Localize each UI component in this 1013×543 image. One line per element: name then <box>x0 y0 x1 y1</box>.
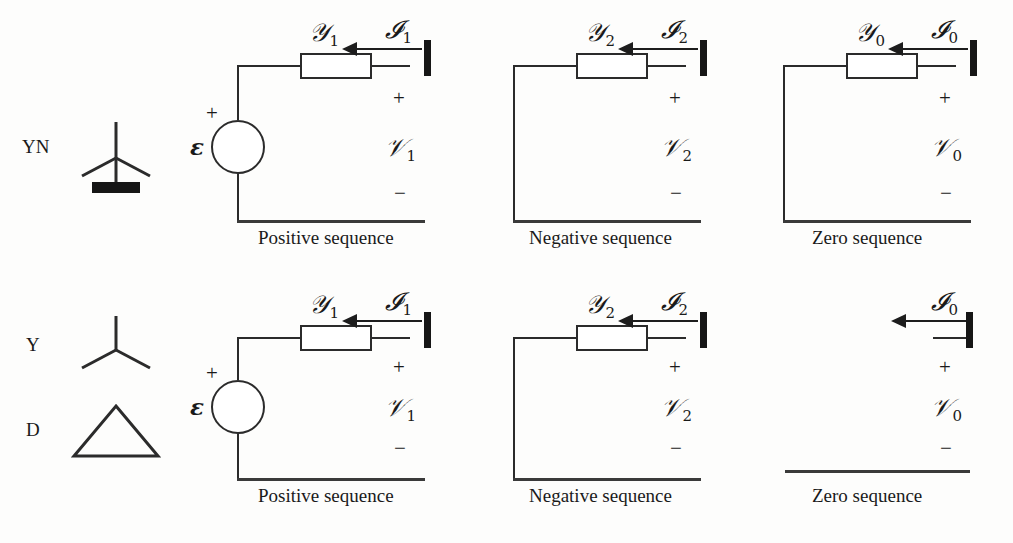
wye-grounded-symbol-icon <box>62 118 170 196</box>
wire-left-return <box>783 65 785 221</box>
network-caption: Negative sequence <box>529 228 672 247</box>
voltage-minus-sign: − <box>394 183 406 204</box>
source-polarity-plus: + <box>206 103 218 124</box>
admittance-box <box>576 53 648 79</box>
connection-label-d: D <box>26 420 40 439</box>
wire-top-left <box>237 65 303 67</box>
admittance-box <box>846 53 918 79</box>
network-caption: Positive sequence <box>258 228 394 247</box>
voltage-source-symbol <box>211 120 265 174</box>
wire-source-upper <box>237 337 239 380</box>
reference-rail <box>785 470 970 473</box>
admittance-label: 𝒴1 <box>309 292 339 321</box>
voltage-label: 𝒱0 <box>931 135 962 164</box>
wire-top-right <box>370 337 410 339</box>
source-label: ε <box>190 395 204 418</box>
network-caption: Zero sequence <box>812 486 922 505</box>
current-arrow-head <box>618 314 633 328</box>
source-polarity-plus: + <box>206 363 218 384</box>
voltage-minus-sign: − <box>394 438 406 459</box>
wire-left-return <box>513 65 515 221</box>
voltage-plus-sign: + <box>939 357 951 378</box>
network-caption: Negative sequence <box>529 486 672 505</box>
reference-rail <box>237 220 425 223</box>
voltage-plus-sign: + <box>393 357 405 378</box>
source-label: ε <box>190 135 204 158</box>
admittance-label: 𝒴2 <box>585 292 615 321</box>
wire-left-return <box>513 337 515 479</box>
current-label: 𝓘2 <box>661 17 688 46</box>
voltage-minus-sign: − <box>940 438 952 459</box>
voltage-plus-sign: + <box>393 88 405 109</box>
voltage-plus-sign: + <box>669 88 681 109</box>
admittance-label: 𝒴1 <box>309 20 339 49</box>
connection-label-y: Y <box>26 335 40 354</box>
current-arrow-head <box>342 42 357 56</box>
wire-top-right <box>646 65 686 67</box>
terminal-bar <box>424 312 431 348</box>
voltage-label: 𝒱1 <box>385 135 416 164</box>
wire-top-right <box>646 337 686 339</box>
admittance-label: 𝒴2 <box>585 20 615 49</box>
wire-source-lower <box>237 433 239 479</box>
current-arrow-shaft <box>632 320 698 322</box>
current-label: 𝓘0 <box>931 17 958 46</box>
admittance-box <box>300 53 372 79</box>
reference-rail <box>237 478 425 481</box>
voltage-label: 𝒱2 <box>661 135 692 164</box>
wire-top-left <box>783 65 849 67</box>
current-arrow-head <box>342 314 357 328</box>
current-label: 𝓘1 <box>385 17 412 46</box>
current-arrow-shaft <box>632 48 698 50</box>
voltage-label: 𝒱1 <box>385 395 416 424</box>
terminal-bar <box>700 312 707 348</box>
voltage-source-symbol <box>211 380 265 434</box>
voltage-minus-sign: − <box>940 183 952 204</box>
current-label: 𝓘1 <box>385 289 412 318</box>
wire-source-lower <box>237 173 239 221</box>
voltage-minus-sign: − <box>670 438 682 459</box>
reference-rail <box>513 220 701 223</box>
voltage-label: 𝒱2 <box>661 395 692 424</box>
wire-top-left <box>513 337 579 339</box>
voltage-minus-sign: − <box>670 183 682 204</box>
wire-top-left <box>513 65 579 67</box>
network-caption: Positive sequence <box>258 486 394 505</box>
current-arrow-shaft <box>356 320 422 322</box>
wye-symbol-icon <box>62 310 170 380</box>
terminal-bar <box>700 40 707 76</box>
wire-source-upper <box>237 65 239 120</box>
wire-top-right <box>916 65 956 67</box>
current-arrow-head <box>888 42 903 56</box>
current-arrow-shaft <box>905 320 971 322</box>
network-caption: Zero sequence <box>812 228 922 247</box>
terminal-bar <box>424 40 431 76</box>
figure-canvas: YN 𝒴1 𝓘1 ε + + 𝒱1 − Positive sequence <box>0 0 1013 543</box>
current-arrow-shaft <box>356 48 422 50</box>
admittance-box <box>576 325 648 351</box>
wire-top-left <box>237 337 303 339</box>
current-label: 𝓘2 <box>661 289 688 318</box>
reference-rail <box>783 220 971 223</box>
current-arrow-shaft <box>902 48 968 50</box>
voltage-plus-sign: + <box>669 357 681 378</box>
connection-label-yn: YN <box>22 137 49 156</box>
voltage-plus-sign: + <box>939 88 951 109</box>
admittance-box <box>300 325 372 351</box>
delta-symbol-icon <box>62 398 170 462</box>
voltage-label: 𝒱0 <box>931 395 962 424</box>
reference-rail <box>513 478 701 481</box>
wire-top-right <box>370 65 410 67</box>
terminal-bar <box>970 40 977 76</box>
current-arrow-head <box>618 42 633 56</box>
current-arrow-head <box>891 314 906 328</box>
current-label: 𝓘0 <box>931 289 958 318</box>
terminal-bar <box>966 312 973 348</box>
admittance-label: 𝒴0 <box>855 20 885 49</box>
